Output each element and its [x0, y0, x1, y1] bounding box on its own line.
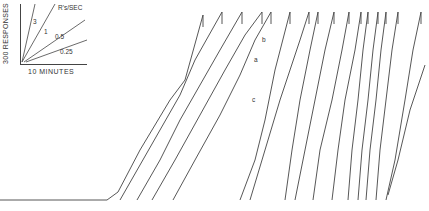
record-segment: [313, 12, 349, 200]
record-segment: [152, 12, 262, 200]
record-segment: [348, 12, 368, 200]
record-segment: [240, 12, 290, 200]
record-segment: [285, 12, 318, 200]
record-segment: [386, 12, 421, 200]
record-segment: [120, 12, 222, 200]
cumulative-record-plot: [0, 0, 429, 211]
record-segment: [295, 12, 334, 200]
record-segment: [250, 12, 309, 200]
record-segment: [366, 12, 386, 200]
record-segment: [388, 65, 425, 195]
record-segment: [137, 12, 242, 200]
record-segment: [332, 12, 361, 200]
